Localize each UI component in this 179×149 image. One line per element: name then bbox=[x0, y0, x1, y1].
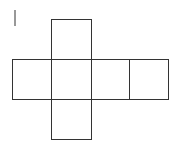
face-left bbox=[13, 60, 52, 100]
face-top bbox=[52, 20, 92, 60]
face-right bbox=[92, 60, 130, 100]
face-center bbox=[52, 60, 92, 100]
face-bottom bbox=[52, 100, 92, 140]
face-far-right bbox=[130, 60, 169, 100]
cube-net-diagram bbox=[0, 0, 179, 149]
